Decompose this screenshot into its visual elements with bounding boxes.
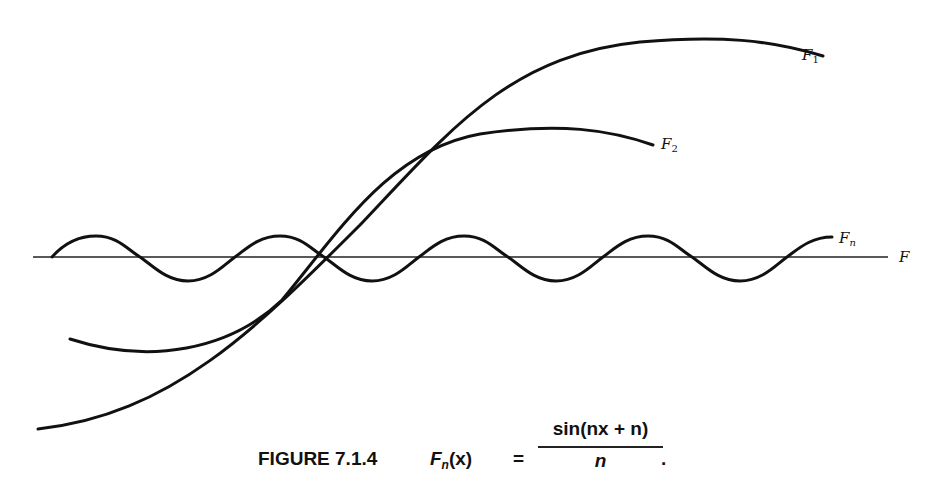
label-F2: F2 <box>661 135 678 154</box>
label-F-base: F <box>899 248 909 266</box>
caption-function-argument: (x) <box>449 448 472 469</box>
caption-function-name: F <box>430 448 442 469</box>
caption-fraction: sin(nx + n) n <box>538 418 663 472</box>
caption-numerator: sin(nx + n) <box>538 418 663 442</box>
caption-lhs: Fn(x) <box>430 448 472 472</box>
caption-function-subscript: n <box>442 458 449 472</box>
label-Fn-subscript: n <box>849 237 855 248</box>
curve-F2 <box>70 128 653 351</box>
label-F1-subscript: 1 <box>812 54 818 65</box>
label-F1-base: F <box>802 46 812 64</box>
label-F2-base: F <box>661 135 671 153</box>
label-Fn: Fn <box>839 229 856 248</box>
curve-F1 <box>38 39 823 429</box>
label-F: F <box>899 248 909 266</box>
label-F1: F1 <box>802 46 819 65</box>
figure-plot <box>0 0 945 488</box>
caption-denominator: n <box>538 450 663 472</box>
label-F2-subscript: 2 <box>671 143 677 154</box>
caption-figure-number: FIGURE 7.1.4 <box>258 448 377 470</box>
caption-equals-sign: = <box>513 448 524 470</box>
label-Fn-base: F <box>839 229 849 247</box>
caption-fraction-bar <box>538 446 663 448</box>
curve-Fn <box>52 236 832 281</box>
caption-period: . <box>661 448 666 470</box>
